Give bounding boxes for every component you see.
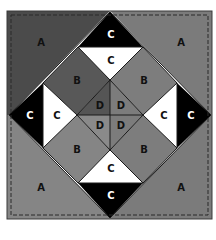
label-C-inner-left: C xyxy=(49,109,65,123)
label-C-inner-right: C xyxy=(156,109,172,123)
label-A-bottom-right: A xyxy=(173,181,189,195)
label-D-bottom-left: D xyxy=(92,119,108,133)
label-B-bottom-left: B xyxy=(69,143,85,157)
label-D-bottom-right: D xyxy=(113,119,129,133)
label-C-outer-right: C xyxy=(183,109,199,123)
label-C-outer-left: C xyxy=(22,109,38,123)
label-B-top-right: B xyxy=(136,74,152,88)
label-A-top-left: A xyxy=(33,36,49,50)
label-D-top-right: D xyxy=(113,99,129,113)
label-B-bottom-right: B xyxy=(136,143,152,157)
label-A-top-right: A xyxy=(173,36,189,50)
label-C-inner-top: C xyxy=(103,54,119,68)
label-C-outer-top: C xyxy=(103,28,119,42)
label-B-top-left: B xyxy=(69,74,85,88)
label-C-inner-bottom: C xyxy=(103,162,119,176)
label-A-bottom-left: A xyxy=(33,181,49,195)
label-C-outer-bottom: C xyxy=(103,189,119,203)
label-D-top-left: D xyxy=(92,99,108,113)
